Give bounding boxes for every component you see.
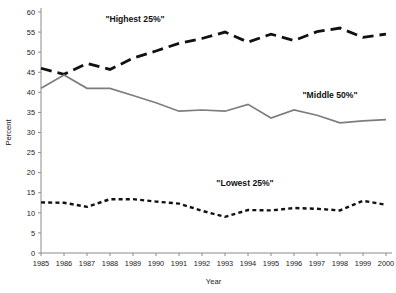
- x-tick-label: 1996: [286, 259, 302, 268]
- series-label-1: "Highest 25%": [105, 14, 164, 24]
- y-tick-label: 10: [27, 209, 35, 218]
- series-line-1: [41, 28, 386, 74]
- y-tick-label: 55: [27, 28, 35, 37]
- y-tick-label: 45: [27, 68, 35, 77]
- x-tick-label: 1999: [355, 259, 371, 268]
- x-axis-title: Year: [206, 277, 222, 286]
- y-axis-title: Percent: [4, 119, 13, 146]
- x-tick-label: 1995: [263, 259, 279, 268]
- y-tick-label: 60: [27, 8, 35, 17]
- y-tick-label: 50: [27, 48, 35, 57]
- x-axis-ticks: 1985198619871988198919901991199219931994…: [33, 253, 394, 268]
- chart-container: 051015202530354045505560 198519861987198…: [0, 0, 396, 293]
- x-tick-label: 1993: [217, 259, 233, 268]
- series-annotations: "Highest 25%""Middle 50%""Lowest 25%": [105, 14, 357, 188]
- x-tick-label: 1997: [309, 259, 325, 268]
- y-tick-label: 20: [27, 168, 35, 177]
- y-tick-label: 30: [27, 128, 35, 137]
- series-label-3: "Lowest 25%": [216, 178, 273, 188]
- series-label-2: "Middle 50%": [303, 90, 358, 100]
- x-tick-label: 1987: [79, 259, 95, 268]
- x-tick-label: 1991: [171, 259, 187, 268]
- y-axis-ticks: 051015202530354045505560: [27, 8, 41, 258]
- x-tick-label: 1990: [148, 259, 164, 268]
- x-tick-label: 1994: [240, 259, 256, 268]
- x-tick-label: 1986: [56, 259, 72, 268]
- x-tick-label: 2000: [378, 259, 394, 268]
- x-tick-label: 1992: [194, 259, 210, 268]
- x-tick-label: 1985: [33, 259, 49, 268]
- y-tick-label: 5: [31, 229, 35, 238]
- line-chart: 051015202530354045505560 198519861987198…: [0, 0, 396, 293]
- y-tick-label: 15: [27, 188, 35, 197]
- x-tick-label: 1989: [125, 259, 141, 268]
- y-tick-label: 35: [27, 108, 35, 117]
- series-line-3: [41, 199, 386, 217]
- y-tick-label: 25: [27, 148, 35, 157]
- y-tick-label: 40: [27, 88, 35, 97]
- x-tick-label: 1988: [102, 259, 118, 268]
- y-tick-label: 0: [31, 249, 35, 258]
- series-lines: [41, 28, 386, 217]
- x-tick-label: 1998: [332, 259, 348, 268]
